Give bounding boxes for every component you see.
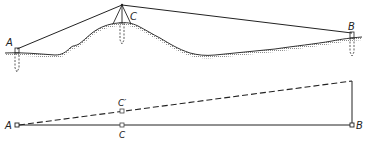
- label-c-profile: C: [130, 11, 137, 22]
- dashed-line-a-c-prime: [19, 81, 352, 125]
- label-c-plan: C: [119, 130, 126, 140]
- plan-diagram: A C′ C B: [4, 81, 363, 140]
- point-c-prime-marker: [120, 109, 124, 113]
- stake-a-icon: [15, 48, 19, 72]
- label-b-profile: B: [348, 21, 355, 32]
- sight-line-to-b: [122, 5, 352, 33]
- point-c-marker: [120, 123, 124, 127]
- point-a-marker: [15, 123, 19, 127]
- profile-diagram: A C B: [5, 4, 362, 72]
- label-a-profile: A: [5, 37, 13, 48]
- label-b-plan: B: [356, 120, 363, 131]
- point-b-marker: [350, 123, 354, 127]
- instrument-apex: [121, 4, 123, 6]
- label-c-prime-plan: C′: [118, 98, 126, 108]
- stake-b-icon: [350, 32, 354, 56]
- label-a-plan: A: [4, 120, 12, 131]
- surveying-diagram: A C B A C′ C B: [0, 0, 367, 145]
